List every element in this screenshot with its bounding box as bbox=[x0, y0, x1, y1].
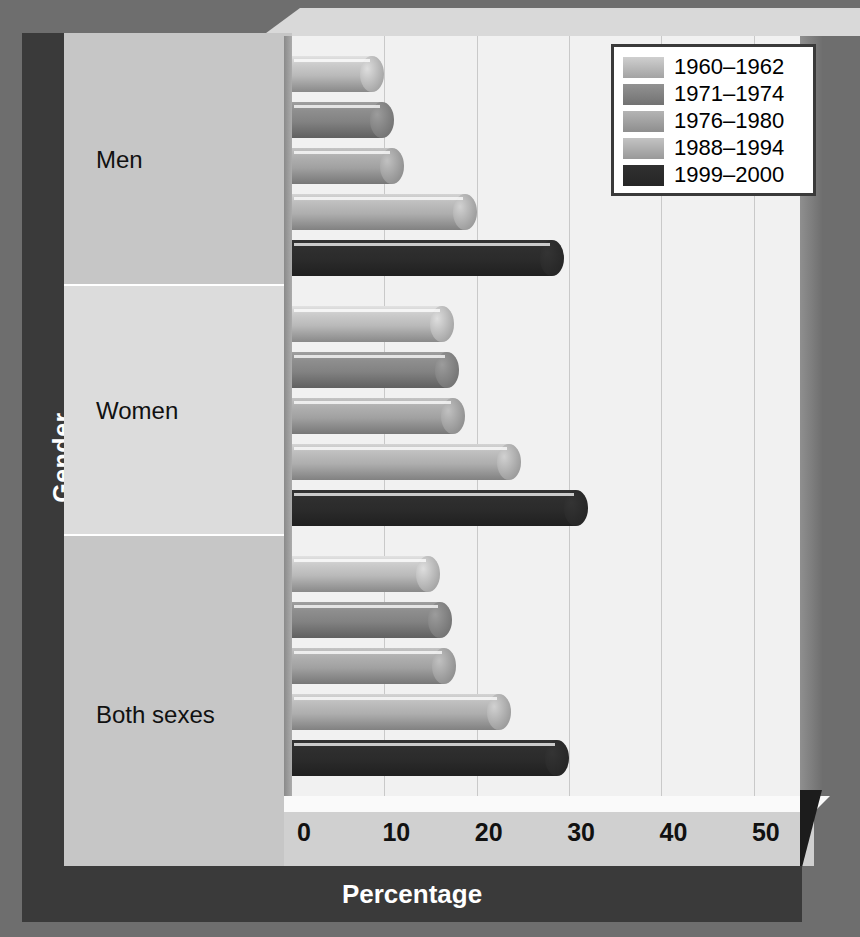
bar-highlight bbox=[294, 151, 390, 154]
plot-top-bevel bbox=[262, 8, 860, 36]
legend-swatch bbox=[623, 111, 664, 132]
bar bbox=[292, 102, 394, 138]
bar-highlight bbox=[294, 559, 426, 562]
legend-swatch bbox=[623, 84, 664, 105]
gridline bbox=[477, 36, 478, 796]
bar-highlight bbox=[294, 243, 550, 246]
x-tick-label: 40 bbox=[660, 818, 688, 847]
category-band-women: Women bbox=[64, 286, 292, 536]
axis-floor bbox=[284, 796, 800, 812]
legend-swatch bbox=[623, 138, 664, 159]
legend-label: 1976–1980 bbox=[674, 110, 784, 132]
category-band-both-sexes: Both sexes bbox=[64, 536, 292, 893]
corner-shadow bbox=[800, 790, 822, 875]
bar bbox=[292, 648, 456, 684]
bar bbox=[292, 194, 477, 230]
bar bbox=[292, 740, 569, 776]
bar-highlight bbox=[294, 401, 451, 404]
bar-highlight bbox=[294, 105, 380, 108]
x-axis-title-band: Percentage bbox=[22, 866, 802, 922]
bar bbox=[292, 306, 454, 342]
x-tick-label: 20 bbox=[475, 818, 503, 847]
x-axis-tick-strip bbox=[284, 812, 814, 866]
x-tick-label: 50 bbox=[752, 818, 780, 847]
bar bbox=[292, 602, 452, 638]
bar bbox=[292, 398, 465, 434]
x-tick-label: 0 bbox=[297, 818, 311, 847]
category-label-men: Men bbox=[96, 146, 143, 174]
category-band-men: Men bbox=[64, 33, 292, 286]
bar-highlight bbox=[294, 493, 574, 496]
legend-item[interactable]: 1999–2000 bbox=[614, 162, 813, 188]
bar-highlight bbox=[294, 447, 507, 450]
bar-highlight bbox=[294, 605, 438, 608]
x-tick-label: 30 bbox=[567, 818, 595, 847]
bar-highlight bbox=[294, 309, 440, 312]
bar-highlight bbox=[294, 355, 445, 358]
bar bbox=[292, 490, 588, 526]
category-label-both-sexes: Both sexes bbox=[96, 701, 215, 729]
legend: 1960–19621971–19741976–19801988–19941999… bbox=[611, 44, 816, 196]
bar bbox=[292, 56, 384, 92]
bar-highlight bbox=[294, 651, 442, 654]
legend-swatch bbox=[623, 165, 664, 186]
legend-item[interactable]: 1960–1962 bbox=[614, 54, 813, 80]
bar bbox=[292, 694, 511, 730]
x-tick-label: 10 bbox=[382, 818, 410, 847]
legend-item[interactable]: 1988–1994 bbox=[614, 135, 813, 161]
legend-label: 1960–1962 bbox=[674, 56, 784, 78]
bar-highlight bbox=[294, 743, 555, 746]
bar bbox=[292, 352, 459, 388]
bar bbox=[292, 556, 440, 592]
category-label-women: Women bbox=[96, 397, 178, 425]
legend-swatch bbox=[623, 57, 664, 78]
x-axis-title: Percentage bbox=[342, 879, 482, 910]
bar-highlight bbox=[294, 59, 370, 62]
y-axis-spine: Gender bbox=[22, 33, 64, 893]
gridline bbox=[569, 36, 570, 796]
bar bbox=[292, 444, 521, 480]
legend-label: 1999–2000 bbox=[674, 164, 784, 186]
category-panel: Men Women Both sexes bbox=[64, 33, 292, 893]
legend-item[interactable]: 1971–1974 bbox=[614, 81, 813, 107]
bar bbox=[292, 148, 404, 184]
bar-highlight bbox=[294, 197, 463, 200]
legend-item[interactable]: 1976–1980 bbox=[614, 108, 813, 134]
legend-label: 1971–1974 bbox=[674, 83, 784, 105]
legend-label: 1988–1994 bbox=[674, 137, 784, 159]
bar bbox=[292, 240, 564, 276]
bar-highlight bbox=[294, 697, 497, 700]
